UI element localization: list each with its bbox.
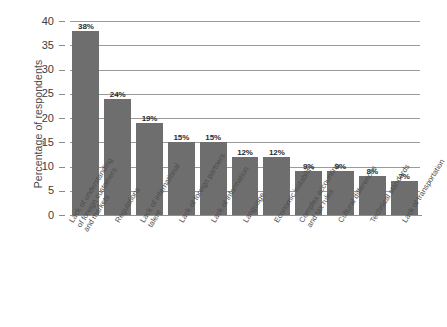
y-tick-label: 0 — [30, 210, 54, 221]
y-tick-label: 5 — [30, 185, 54, 196]
y-tick-mark — [59, 215, 65, 216]
y-tick-label: 10 — [30, 161, 54, 172]
y-tick-mark — [59, 94, 65, 95]
y-tick-mark — [59, 70, 65, 71]
y-tick-mark — [59, 118, 65, 119]
y-tick-mark — [59, 45, 65, 46]
bar-value-label: 15% — [164, 133, 199, 142]
y-tick-mark — [59, 167, 65, 168]
bar-value-label: 24% — [100, 90, 135, 99]
y-tick-label: 25 — [30, 88, 54, 99]
y-tick-label: 20 — [30, 113, 54, 124]
bar-value-label: 12% — [259, 148, 294, 157]
y-tick-label: 35 — [30, 40, 54, 51]
gridline — [70, 21, 420, 22]
gridline — [70, 70, 420, 71]
bar-value-label: 38% — [68, 22, 103, 31]
y-tick-mark — [59, 21, 65, 22]
y-tick-mark — [59, 142, 65, 143]
bar-value-label: 19% — [132, 114, 167, 123]
bar-value-label: 15% — [196, 133, 231, 142]
gridline — [70, 45, 420, 46]
y-tick-label: 30 — [30, 64, 54, 75]
y-tick-mark — [59, 191, 65, 192]
y-tick-label: 40 — [30, 16, 54, 27]
y-tick-label: 15 — [30, 137, 54, 148]
bar-value-label: 12% — [228, 148, 263, 157]
